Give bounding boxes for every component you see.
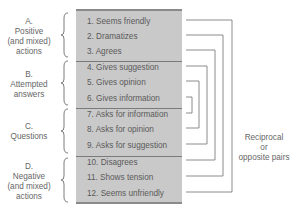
connector-6-7 (186, 97, 192, 113)
side-label-line: Reciprocal (236, 133, 292, 143)
connector-1-12 (186, 20, 232, 192)
side-label-line: opposite pairs (236, 153, 292, 163)
connector-2-11 (186, 35, 223, 176)
pair-connectors (0, 0, 297, 213)
side-label-line: or (236, 143, 292, 153)
connector-3-10 (186, 50, 215, 160)
connector-4-9 (186, 66, 207, 144)
reciprocal-pairs-label: Reciprocal or opposite pairs (236, 133, 292, 163)
connector-5-8 (186, 81, 199, 128)
